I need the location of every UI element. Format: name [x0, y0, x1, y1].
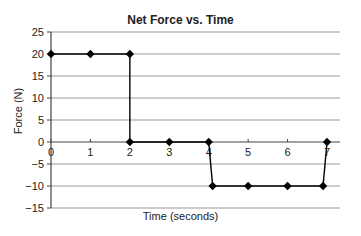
net-force-chart: Net Force vs. Time Force (N) Time (secon… [0, 0, 361, 236]
diamond-marker-icon [126, 50, 134, 58]
x-tick-label: 6 [285, 146, 291, 158]
plot-area: 2520151050−5−10−1501234567 [0, 0, 361, 236]
y-tick-label: 20 [32, 48, 44, 60]
y-tick-label: 25 [32, 26, 44, 38]
diamond-marker-icon [208, 182, 216, 190]
diamond-marker-icon [319, 182, 327, 190]
chart-title: Net Force vs. Time [0, 13, 361, 27]
x-tick-label: 5 [245, 146, 251, 158]
y-tick-label: 10 [32, 92, 44, 104]
x-tick-label: 0 [48, 146, 54, 158]
diamond-marker-icon [126, 138, 134, 146]
diamond-marker-icon [283, 182, 291, 190]
y-tick-label: 5 [38, 114, 44, 126]
diamond-marker-icon [165, 138, 173, 146]
diamond-marker-icon [244, 182, 252, 190]
x-tick-label: 2 [127, 146, 133, 158]
y-tick-label: 0 [38, 136, 44, 148]
x-tick-label: 3 [166, 146, 172, 158]
diamond-marker-icon [86, 50, 94, 58]
y-tick-label: −10 [25, 180, 44, 192]
y-tick-label: −5 [31, 158, 44, 170]
x-axis-label: Time (seconds) [0, 210, 361, 222]
diamond-marker-icon [47, 50, 55, 58]
y-tick-label: 15 [32, 70, 44, 82]
x-tick-label: 1 [87, 146, 93, 158]
y-axis-label: Force (N) [12, 81, 24, 141]
diamond-marker-icon [323, 138, 331, 146]
diamond-marker-icon [205, 138, 213, 146]
